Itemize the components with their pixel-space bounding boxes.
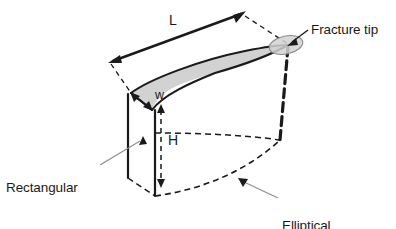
- width-label: w: [155, 88, 164, 103]
- height-arrowhead-top: [157, 104, 165, 113]
- rectangular-cross-section-label: Rectangular cross section: [6, 148, 83, 229]
- rect-face-bottom-edge: [128, 178, 155, 196]
- elliptical-leader-arrowhead: [238, 178, 248, 187]
- length-extension-left: [111, 64, 131, 93]
- length-label: L: [169, 12, 177, 29]
- figure-canvas: L w H Fracture tip Rectangular cross sec…: [0, 0, 396, 229]
- elliptical-label-line1: Elliptical: [282, 218, 359, 229]
- rectangular-leader-arrowhead: [139, 136, 147, 145]
- elliptical-leader-line: [244, 182, 278, 198]
- elliptical-cross-section-label: Elliptical cross section: [282, 186, 359, 229]
- rectangular-label-line1: Rectangular: [6, 180, 83, 196]
- fracture-tip-vertical-edge: [280, 47, 288, 140]
- length-arrowhead-right: [233, 11, 246, 23]
- length-dimension-line: [113, 14, 241, 61]
- height-arrowhead-bottom: [157, 179, 165, 188]
- height-label: H: [168, 132, 178, 149]
- rectangular-leader-line: [100, 141, 140, 165]
- rectangular-label-line2: cross section: [6, 228, 83, 229]
- length-arrowhead-left: [108, 55, 122, 63]
- fracture-tip-label: Fracture tip: [311, 22, 378, 38]
- elliptical-curve-lower: [155, 141, 279, 196]
